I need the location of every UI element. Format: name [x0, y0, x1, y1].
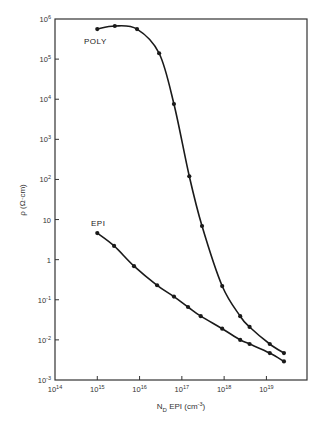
data-point: [132, 264, 136, 268]
data-point: [95, 27, 99, 31]
data-point: [220, 327, 224, 331]
series-label-epi: EPI: [91, 219, 105, 228]
x-tick-labels: 101410151016101710181019: [48, 384, 274, 394]
curve-poly: [97, 26, 284, 353]
resistivity-chart: 101410151016101710181019 106105104103102…: [0, 0, 324, 427]
y-tick-labels: 10610510410310210110-110-210-3: [38, 14, 51, 385]
data-point: [268, 342, 272, 346]
y-tick-label: 103: [40, 134, 51, 144]
data-point: [247, 325, 251, 329]
data-point: [95, 231, 99, 235]
data-point: [155, 283, 159, 287]
data-point: [238, 338, 242, 342]
x-axis-title-end: ): [203, 402, 206, 411]
y-tick-label: 1: [47, 256, 51, 265]
curve-epi: [97, 233, 284, 361]
plot-frame: [55, 19, 307, 380]
data-point: [282, 359, 286, 363]
data-point: [187, 174, 191, 178]
axis-ticks: [55, 59, 266, 380]
x-tick-label: 1015: [90, 384, 104, 394]
data-point: [157, 51, 161, 55]
x-tick-label: 1018: [217, 384, 231, 394]
data-point: [282, 351, 286, 355]
y-tick-label: 104: [40, 94, 51, 104]
y-tick-label: 106: [40, 14, 51, 24]
x-tick-label: 1019: [259, 384, 273, 394]
x-axis-title: ND EPI (cm-3): [157, 401, 206, 413]
data-point: [172, 295, 176, 299]
data-point: [172, 102, 176, 106]
y-tick-label: 102: [40, 174, 51, 184]
y-tick-label: 10-1: [38, 295, 51, 305]
data-point: [200, 224, 204, 228]
data-point: [199, 314, 203, 318]
data-point: [135, 27, 139, 31]
y-tick-label: 10: [43, 216, 51, 225]
data-point: [186, 305, 190, 309]
x-tick-label: 1014: [48, 384, 62, 394]
data-point: [220, 284, 224, 288]
data-point: [247, 342, 251, 346]
data-point: [113, 24, 117, 28]
x-tick-label: 1016: [132, 384, 146, 394]
x-tick-label: 1017: [175, 384, 189, 394]
data-point: [238, 314, 242, 318]
y-tick-label: 105: [40, 54, 51, 64]
y-axis-title: ρ (Ω·cm): [18, 184, 27, 216]
data-point: [112, 244, 116, 248]
series-label-poly: POLY: [84, 37, 107, 46]
x-axis-title-rest: EPI (cm: [167, 402, 198, 411]
y-tick-label: 10-3: [38, 375, 51, 385]
data-curves: [95, 24, 286, 364]
y-tick-label: 10-2: [38, 335, 51, 345]
data-point: [268, 351, 272, 355]
